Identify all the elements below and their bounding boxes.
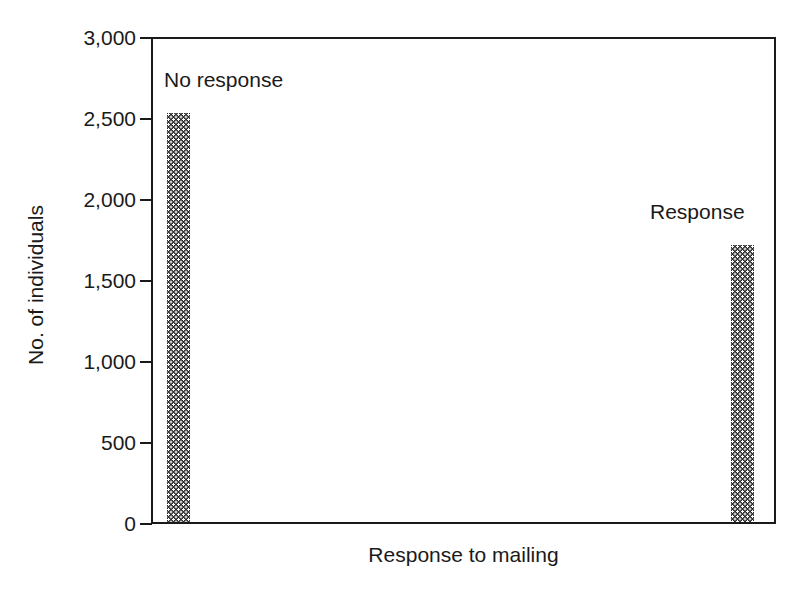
bar-no-response xyxy=(167,113,190,522)
x-axis-title: Response to mailing xyxy=(151,543,776,567)
y-tick-label-1500: 1,500 xyxy=(83,270,136,291)
y-tick-label-0: 0 xyxy=(124,513,136,534)
y-tick-label-1000: 1,000 xyxy=(83,351,136,372)
y-tick-label-3000: 3,000 xyxy=(83,27,136,48)
plot-area xyxy=(151,37,776,524)
y-tick-label-2500: 2,500 xyxy=(83,108,136,129)
bar-label-no-response: No response xyxy=(164,69,283,90)
y-tick-label-2000: 2,000 xyxy=(83,189,136,210)
bar-response xyxy=(731,245,754,522)
y-tick-label-500: 500 xyxy=(101,432,136,453)
bar-label-response: Response xyxy=(650,201,745,222)
y-axis-title: No. of individuals xyxy=(24,135,48,435)
bar-chart-figure: No. of individuals 3,000 2,500 2,000 1,5… xyxy=(0,0,805,589)
